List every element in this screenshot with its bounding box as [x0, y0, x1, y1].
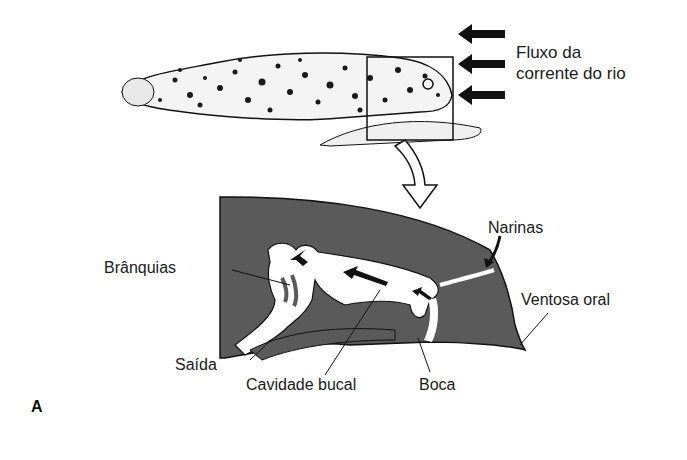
- flow-label-line1: Fluxo da: [516, 44, 581, 61]
- panel-label: A: [31, 398, 43, 416]
- flow-label-line2: corrente do rio: [516, 65, 626, 82]
- label-oral-sucker: Ventosa oral: [521, 292, 610, 308]
- left-arrow-icon: [458, 85, 505, 105]
- left-arrow-icon: [458, 54, 505, 74]
- label-buccal-cavity: Cavidade bucal: [246, 377, 356, 393]
- label-exit: Saída: [175, 357, 217, 373]
- label-nostrils: Narinas: [488, 220, 543, 236]
- flow-arrows: [458, 24, 505, 105]
- label-mouth: Boca: [419, 377, 455, 393]
- label-gills: Brânquias: [104, 260, 176, 276]
- left-arrow-icon: [458, 24, 505, 44]
- expand-arrow-icon: [395, 140, 437, 208]
- tadpole-illustration: [122, 53, 481, 146]
